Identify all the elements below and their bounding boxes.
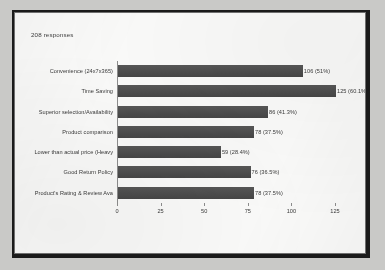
responses-caption: 208 responses (31, 31, 74, 38)
x-axis-tick (161, 203, 162, 206)
category-label: Lower than actual price (Heavy (34, 146, 113, 158)
x-axis-tick (204, 203, 205, 206)
bar (118, 85, 336, 97)
category-label: Superior selection/Availability (39, 106, 113, 118)
bar-value-label: 78 (37.5%) (255, 187, 283, 199)
bar-row: Lower than actual price (Heavy59 (28.4%) (117, 142, 335, 162)
plot-area: Convenience (24x7x365)106 (51%)Time Savi… (117, 61, 335, 203)
bar (118, 126, 254, 138)
category-label: Product comparison (62, 126, 113, 138)
bar (118, 65, 303, 77)
bar (118, 187, 254, 199)
category-label: Product's Rating & Review Ava (35, 187, 113, 199)
bar-value-label: 86 (41.3%) (269, 106, 297, 118)
x-axis-tick-label: 50 (201, 208, 207, 214)
bar (118, 166, 251, 178)
x-axis-tick-label: 0 (115, 208, 118, 214)
bar-row: Time Saving125 (60.1%) (117, 81, 335, 101)
x-axis-tick (335, 203, 336, 206)
x-axis-tick (248, 203, 249, 206)
x-axis: 0255075100125 (117, 203, 335, 223)
category-label: Convenience (24x7x365) (50, 65, 113, 77)
x-axis-tick-label: 75 (245, 208, 251, 214)
bar-value-label: 78 (37.5%) (255, 126, 283, 138)
bar-row: Product's Rating & Review Ava78 (37.5%) (117, 183, 335, 203)
x-axis-tick-label: 125 (330, 208, 339, 214)
bar-value-label: 125 (60.1%) (337, 85, 366, 97)
bar-row: Superior selection/Availability86 (41.3%… (117, 102, 335, 122)
x-axis-tick-label: 100 (287, 208, 296, 214)
bar-row: Good Return Policy76 (36.5%) (117, 162, 335, 182)
x-axis-tick (117, 203, 118, 206)
bar (118, 146, 221, 158)
scanned-page: 208 responses Convenience (24x7x365)106 … (0, 0, 385, 270)
bar (118, 106, 268, 118)
category-label: Time Saving (82, 85, 113, 97)
bar-chart: Convenience (24x7x365)106 (51%)Time Savi… (15, 57, 366, 235)
bar-value-label: 59 (28.4%) (222, 146, 250, 158)
x-axis-tick-label: 25 (157, 208, 163, 214)
bar-value-label: 76 (36.5%) (252, 166, 280, 178)
bar-value-label: 106 (51%) (304, 65, 330, 77)
chart-figure: 208 responses Convenience (24x7x365)106 … (14, 12, 366, 254)
category-label: Good Return Policy (64, 166, 113, 178)
x-axis-tick (291, 203, 292, 206)
bar-row: Product comparison78 (37.5%) (117, 122, 335, 142)
bar-row: Convenience (24x7x365)106 (51%) (117, 61, 335, 81)
